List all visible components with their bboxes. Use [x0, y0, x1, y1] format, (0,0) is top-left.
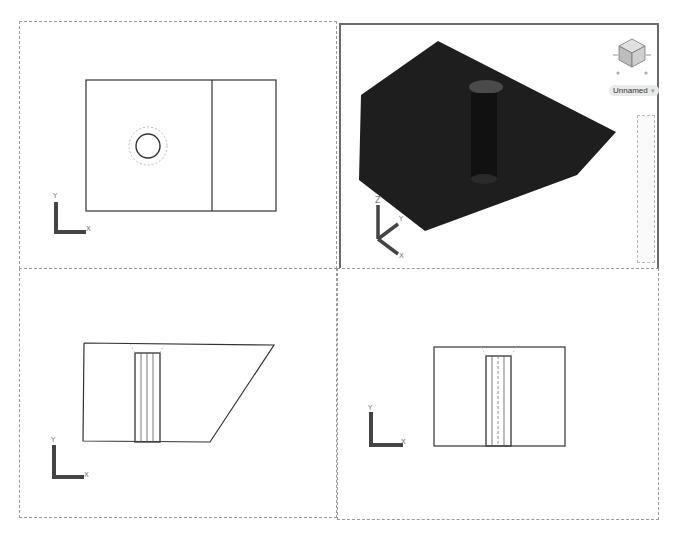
hole-bore	[471, 93, 497, 179]
viewcube[interactable]	[609, 35, 655, 85]
chevron-down-icon: ▾	[651, 87, 655, 94]
viewport-isometric[interactable]: Z Y X Unnamed▾	[339, 23, 659, 273]
front-view-drawing: Y X	[20, 269, 338, 519]
svg-text:Y: Y	[50, 436, 56, 444]
svg-text:X: X	[86, 225, 91, 233]
ucs-icon: Y X	[50, 436, 89, 479]
counterbore-hidden-circle	[129, 127, 167, 165]
svg-text:Y: Y	[398, 215, 404, 223]
navigation-bar[interactable]	[637, 115, 655, 263]
top-view-drawing: Y X	[20, 22, 338, 270]
svg-text:X: X	[84, 471, 89, 479]
svg-text:Y: Y	[367, 404, 373, 412]
viewport-front[interactable]: Y X	[19, 268, 337, 518]
ucs-label-text: Unnamed	[613, 86, 648, 95]
right-view-drawing: Y X	[338, 269, 660, 521]
counterbore-top	[469, 80, 503, 94]
compass-east-icon	[644, 71, 647, 74]
ucs-menu-button[interactable]: Unnamed▾	[609, 85, 659, 96]
ucs-icon: Y X	[52, 192, 91, 234]
svg-text:Z: Z	[375, 196, 381, 205]
viewport-top[interactable]: Y X	[19, 21, 337, 269]
viewport-right[interactable]: Y X	[337, 268, 659, 520]
svg-text:X: X	[401, 438, 406, 446]
ucs-icon: Y X	[367, 404, 406, 447]
hole-circle	[136, 134, 160, 158]
svg-text:X: X	[399, 252, 404, 260]
compass-west-icon	[616, 71, 619, 74]
svg-text:Y: Y	[52, 192, 58, 200]
